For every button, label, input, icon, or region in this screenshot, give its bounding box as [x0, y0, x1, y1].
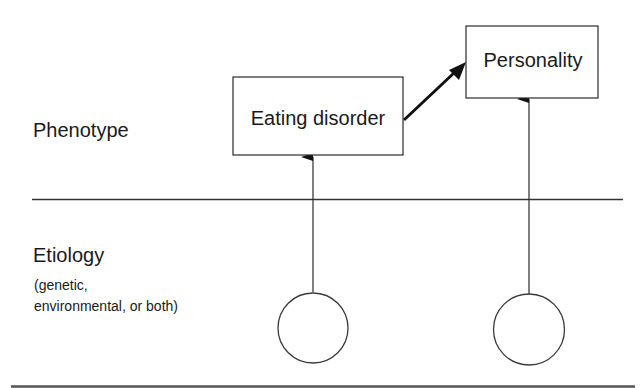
etiology-level-label: Etiology	[33, 244, 104, 266]
eating-disorder-to-personality-arrow	[404, 62, 466, 120]
phenotype-level-label: Phenotype	[33, 119, 129, 141]
eating-disorder-label: Eating disorder	[251, 107, 386, 129]
phenotype-etiology-diagram: Phenotype Etiology (genetic, environment…	[0, 0, 644, 388]
personality-node: Personality	[466, 26, 598, 98]
etiology-sublabel-line1: (genetic,	[34, 277, 88, 293]
etiology-sublabel-line2: environmental, or both)	[34, 298, 178, 314]
cause-left-circle	[278, 293, 348, 363]
cause-right-circle	[494, 294, 565, 365]
eating-disorder-node: Eating disorder	[233, 77, 403, 155]
personality-label: Personality	[484, 49, 583, 71]
